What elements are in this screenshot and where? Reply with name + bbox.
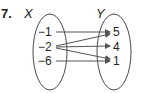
y-element-1: 5 bbox=[113, 25, 120, 39]
x-element-2: −2 bbox=[38, 40, 52, 54]
x-element-1: −1 bbox=[38, 25, 52, 39]
mapping-arrows bbox=[56, 32, 110, 61]
y-element-2: 4 bbox=[113, 40, 120, 54]
y-element-3: 1 bbox=[113, 54, 120, 68]
mapping-diagram bbox=[0, 0, 148, 93]
x-element-3: −6 bbox=[38, 54, 52, 68]
